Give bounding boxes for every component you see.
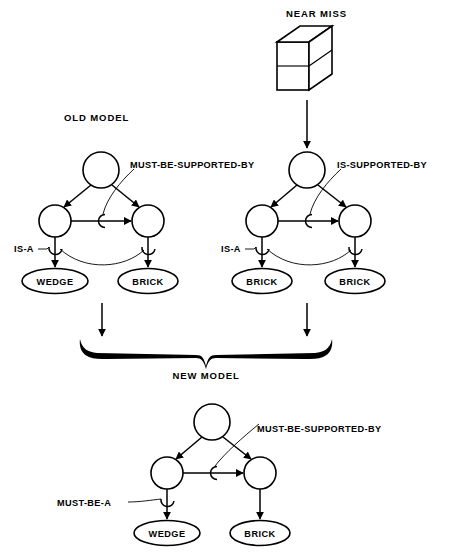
new-model-title: NEW MODEL xyxy=(172,370,239,381)
new-model-left-node xyxy=(151,457,183,489)
near-miss-model-top-node xyxy=(289,152,325,188)
new-model-brick-label: BRICK xyxy=(244,529,275,539)
semantic-network-diagram: NEAR MISS OLD MODEL xyxy=(0,0,459,557)
old-model-title: OLD MODEL xyxy=(64,112,129,123)
new-model-wedge-label: WEDGE xyxy=(149,529,186,539)
new-model-left-link-label: MUST-BE-A xyxy=(57,498,111,508)
near-miss-block-icon xyxy=(277,26,332,90)
near-miss-model-right-brick-label: BRICK xyxy=(339,277,370,287)
near-miss-model-top-link-label: IS-SUPPORTED-BY xyxy=(337,160,427,170)
new-model-right-node xyxy=(244,457,276,489)
old-model-top-node xyxy=(83,152,119,188)
near-miss-model-left-node xyxy=(246,205,278,237)
near-miss-model-left-brick-label: BRICK xyxy=(246,277,277,287)
old-model-left-link-label: IS-A xyxy=(14,244,34,254)
old-model-left-node xyxy=(39,205,71,237)
old-model-right-node xyxy=(132,205,164,237)
near-miss-model-left-link-label: IS-A xyxy=(221,244,241,254)
near-miss-model-right-node xyxy=(339,205,371,237)
new-model-top-link-label: MUST-BE-SUPPORTED-BY xyxy=(257,424,381,434)
old-model-wedge-label: WEDGE xyxy=(37,277,74,287)
old-model-brick-label: BRICK xyxy=(132,277,163,287)
old-model-top-link-label: MUST-BE-SUPPORTED-BY xyxy=(130,160,254,170)
new-model-top-node xyxy=(194,404,230,440)
near-miss-title: NEAR MISS xyxy=(286,8,347,19)
